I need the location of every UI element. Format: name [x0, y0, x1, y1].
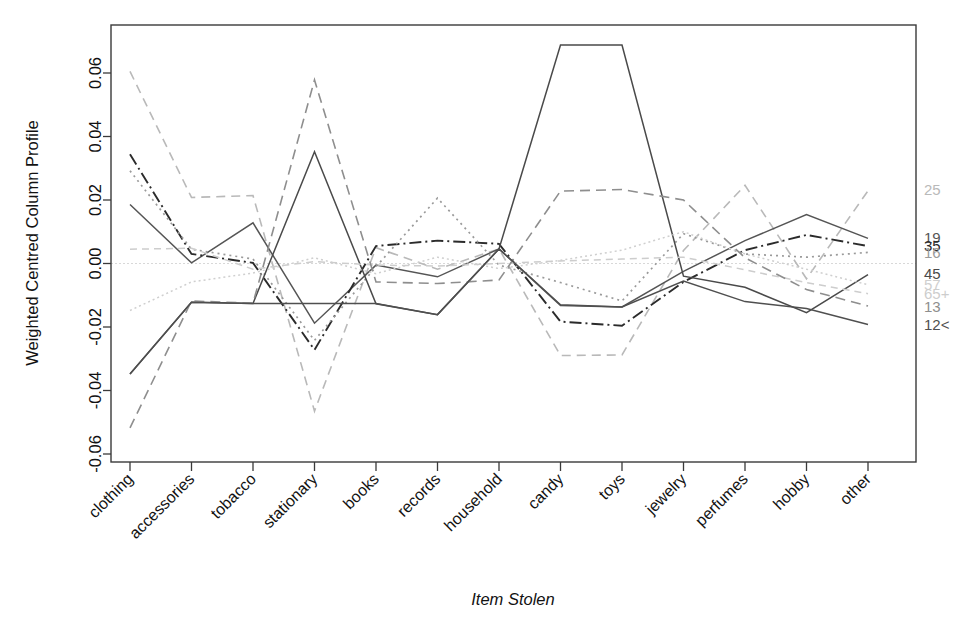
- x-axis-tick-label: stationary: [260, 470, 321, 531]
- series-lines: [130, 45, 868, 428]
- x-axis-ticks: clothingaccessoriestobaccostationarybook…: [85, 462, 874, 542]
- series-line-13: [130, 80, 868, 428]
- y-axis-tick-label: 0.06: [86, 57, 104, 89]
- y-axis-tick-label: 0.04: [86, 120, 104, 152]
- x-axis-tick-label: jewelry: [642, 470, 690, 518]
- y-axis-tick-label: 0.00: [86, 247, 104, 279]
- x-axis-tick-label: hobby: [770, 470, 813, 513]
- x-axis-tick-label: household: [441, 470, 505, 534]
- legend: 25193516455765+1312<: [924, 181, 950, 333]
- series-line-12<: [130, 249, 868, 374]
- x-axis-tick-label: toys: [595, 470, 628, 503]
- x-axis-tick-label: clothing: [85, 470, 136, 521]
- x-axis-tick-label: books: [340, 470, 382, 512]
- x-axis-tick-label: records: [394, 470, 444, 520]
- x-axis-tick-label: candy: [524, 470, 566, 512]
- x-axis-title: Item Stolen: [471, 590, 554, 608]
- x-axis-tick-label: perfumes: [692, 470, 751, 529]
- series-line-65+: [130, 248, 868, 293]
- y-axis-title: Weighted Centred Column Profile: [23, 120, 41, 366]
- series-line-35: [130, 154, 868, 350]
- y-axis-tick-label: -0.06: [86, 435, 104, 473]
- y-axis-ticks: 0.060.040.020.00-0.02-0.04-0.06: [86, 57, 111, 473]
- x-axis-tick-label: tobacco: [207, 470, 259, 522]
- series-line-45: [130, 45, 868, 374]
- plot-border: [111, 25, 916, 462]
- legend-label-13: 13: [924, 298, 941, 315]
- chart-container: Weighted Centred Column Profile Item Sto…: [0, 0, 978, 637]
- legend-label-12<: 12<: [924, 316, 950, 333]
- y-axis-tick-label: -0.02: [86, 308, 104, 346]
- y-axis-tick-label: 0.02: [86, 184, 104, 216]
- legend-label-25: 25: [924, 181, 941, 198]
- x-axis-tick-label: accessories: [126, 470, 198, 542]
- legend-label-16: 16: [924, 244, 941, 261]
- series-line-16: [130, 171, 868, 341]
- line-chart: Weighted Centred Column Profile Item Sto…: [0, 0, 978, 637]
- series-line-25: [130, 71, 868, 411]
- x-axis-tick-label: other: [836, 470, 874, 508]
- y-axis-tick-label: -0.04: [86, 372, 104, 410]
